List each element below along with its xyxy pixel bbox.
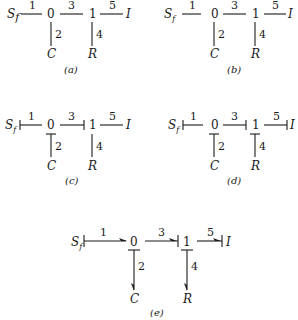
panel-caption: (a) [64, 64, 78, 75]
source-flow-label: Sf [168, 118, 181, 134]
panel-caption: (b) [227, 64, 241, 75]
source-flow-label: Sf [7, 7, 21, 24]
bond-graph-figure: Sf 1 0 3 1 5 I 2 C 4 R (a) Sf 1 0 3 1 5 … [0, 0, 298, 320]
bond-2-label: 2 [218, 140, 225, 153]
one-junction: 1 [252, 118, 260, 132]
resistor-element: R [87, 47, 97, 61]
bond-4-label: 4 [259, 140, 266, 153]
inertia-element: I [289, 118, 295, 132]
bond-2-label: 2 [55, 28, 62, 41]
bond-5-label: 5 [109, 0, 116, 12]
bond-3-label: 3 [231, 110, 238, 123]
capacitor-element: C [130, 292, 139, 306]
bond-1-label: 1 [189, 0, 196, 12]
capacitor-element: C [210, 159, 219, 173]
bond-2-label: 2 [55, 140, 62, 153]
bond-1-label: 1 [29, 0, 36, 12]
inertia-element: I [125, 118, 131, 132]
source-flow-label: Sf [164, 7, 177, 23]
inertia-element: I [225, 235, 231, 249]
panel-c: Sf 1 0 3 1 5 I 2 C 4 R (c) [5, 110, 131, 186]
capacitor-element: C [210, 47, 219, 61]
resistor-element: R [87, 159, 97, 173]
zero-junction: 0 [211, 118, 219, 132]
capacitor-element: C [47, 159, 56, 173]
bond-2-label: 2 [138, 260, 145, 273]
bond-3-label: 3 [68, 110, 75, 123]
one-junction: 1 [89, 118, 97, 132]
zero-junction: 0 [47, 118, 55, 132]
zero-junction: 0 [211, 7, 219, 21]
bond-5-label: 5 [272, 0, 279, 12]
zero-junction: 0 [130, 235, 138, 249]
one-junction: 1 [89, 7, 97, 21]
bond-3-label: 3 [158, 226, 165, 239]
panel-caption: (e) [150, 307, 164, 318]
bond-3-label: 3 [231, 0, 238, 12]
bond-1-label: 1 [190, 110, 197, 123]
bond-4-label: 4 [96, 140, 103, 153]
capacitor-element: C [47, 47, 56, 61]
bond-5-label: 5 [109, 110, 116, 123]
zero-junction: 0 [47, 7, 55, 21]
bond-3-label: 3 [68, 0, 75, 12]
resistor-element: R [250, 159, 260, 173]
bond-1-label: 1 [28, 110, 35, 123]
panel-caption: (c) [65, 175, 79, 186]
inertia-element: I [125, 7, 131, 21]
bond-5-label: 5 [273, 110, 280, 123]
bond-2-label: 2 [218, 28, 225, 41]
panel-d: Sf 1 0 3 1 5 I 2 C 4 R (d) [168, 110, 295, 186]
inertia-element: I [287, 7, 293, 21]
bond-4-label: 4 [191, 260, 198, 273]
bond-4-label: 4 [96, 28, 103, 41]
source-flow-label: Sf [71, 235, 84, 251]
panel-a: Sf 1 0 3 1 5 I 2 C 4 R (a) [7, 0, 131, 75]
panel-caption: (d) [227, 175, 241, 186]
panel-b: Sf 1 0 3 1 5 I 2 C 4 R (b) [164, 0, 293, 75]
source-flow-label: Sf [5, 118, 18, 134]
one-junction: 1 [183, 235, 191, 249]
bond-4-label: 4 [259, 28, 266, 41]
resistor-element: R [182, 292, 192, 306]
resistor-element: R [250, 47, 260, 61]
bond-5-label: 5 [207, 226, 214, 239]
one-junction: 1 [252, 7, 260, 21]
panel-e: Sf 1 0 3 1 5 I 2 C 4 R (e) [71, 226, 231, 318]
bond-1-label: 1 [100, 226, 107, 239]
